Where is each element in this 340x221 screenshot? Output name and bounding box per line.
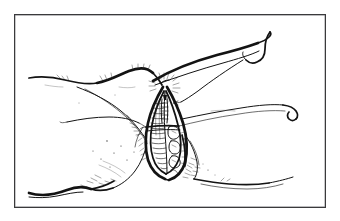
figure-border <box>14 14 326 208</box>
anatomical-line-drawing <box>15 15 326 208</box>
page-canvas <box>0 0 340 221</box>
